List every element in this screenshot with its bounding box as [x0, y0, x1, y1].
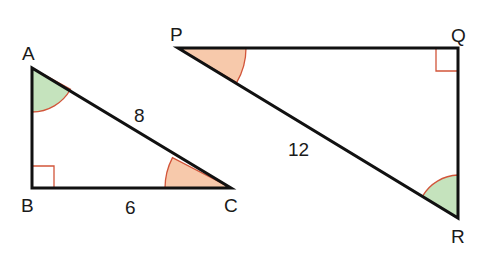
- vertex-label-q: Q: [451, 25, 466, 46]
- vertex-label-b: B: [21, 195, 34, 216]
- vertex-label-c: C: [224, 195, 238, 216]
- vertex-label-p: P: [170, 24, 183, 45]
- right-angle-q-marker: [436, 48, 458, 71]
- vertex-label-a: A: [22, 43, 35, 64]
- right-angle-b-marker: [32, 166, 54, 188]
- side-label-ac: 8: [134, 105, 145, 126]
- triangle-pqr: P Q R 12: [170, 24, 466, 247]
- side-label-bc: 6: [125, 197, 136, 218]
- vertex-label-r: R: [451, 226, 465, 247]
- angle-a-marker: [32, 68, 71, 112]
- angle-r-marker: [422, 175, 458, 218]
- triangle-abc-outline: [32, 68, 231, 188]
- side-label-pr: 12: [288, 139, 309, 160]
- similar-triangles-diagram: A B C 8 6 P Q R 12: [0, 0, 493, 257]
- triangle-abc: A B C 8 6: [21, 43, 238, 218]
- triangle-pqr-outline: [178, 48, 458, 218]
